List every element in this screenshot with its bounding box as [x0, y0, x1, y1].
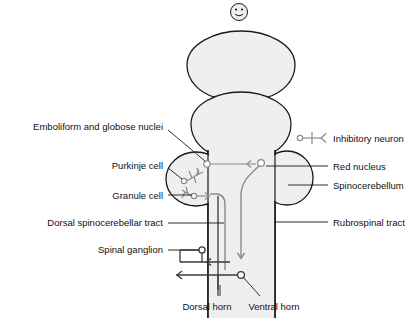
red-nucleus-neuron	[258, 160, 265, 167]
label-rubrospinal-tract: Rubrospinal tract	[333, 217, 405, 228]
label-ventral-horn: Ventral horn	[248, 301, 299, 312]
spinocerebellum-diagram: Emboliform and globose nuclei Purkinje c…	[0, 0, 418, 318]
label-spinal-ganglion: Spinal ganglion	[98, 244, 163, 255]
label-purkinje-cell: Purkinje cell	[112, 160, 163, 171]
label-dorsal-spinocerebellar-tract: Dorsal spinocerebellar tract	[47, 217, 163, 228]
label-dorsal-horn: Dorsal horn	[182, 301, 231, 312]
label-emboliform-globose-nuclei: Emboliform and globose nuclei	[33, 121, 163, 132]
label-spinocerebellum: Spinocerebellum	[333, 180, 404, 191]
label-inhibitory-neuron: Inhibitory neuron	[333, 133, 404, 144]
label-red-nucleus: Red nucleus	[333, 161, 386, 172]
smiley-face-icon	[231, 4, 248, 21]
diagram-canvas: Emboliform and globose nuclei Purkinje c…	[0, 0, 418, 318]
label-granule-cell: Granule cell	[112, 190, 163, 201]
inhibitory-neuron-symbol-icon	[297, 132, 326, 144]
